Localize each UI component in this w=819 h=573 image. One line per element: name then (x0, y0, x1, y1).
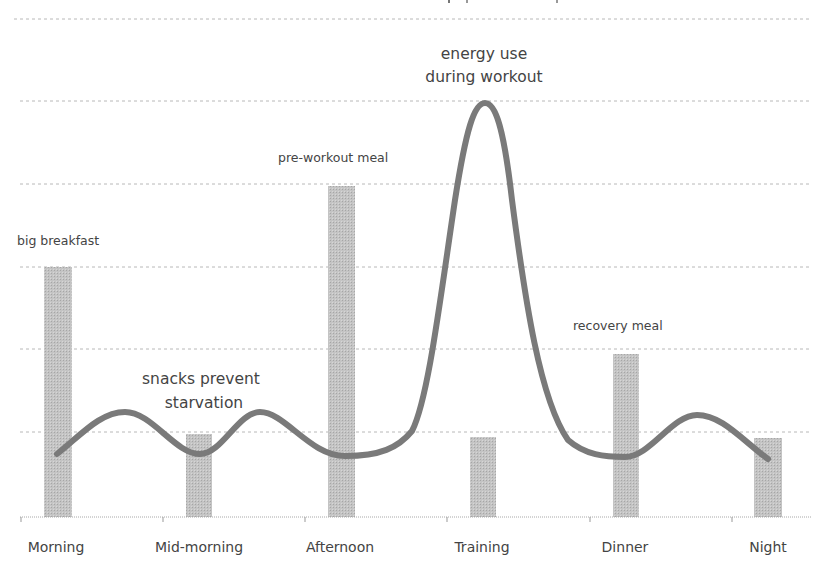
bar-mid-morning (186, 434, 212, 517)
bar-series (44, 186, 782, 517)
x-label-training: Training (453, 539, 509, 555)
annotation-recovery: recovery meal (573, 318, 663, 333)
x-axis-labels: Morning Mid-morning Afternoon Training D… (28, 539, 788, 555)
annotation-big-breakfast: big breakfast (17, 233, 99, 248)
bar-morning (44, 267, 72, 517)
annotation-energy-line2: during workout (425, 68, 542, 86)
x-label-mid-morning: Mid-morning (155, 539, 243, 555)
bar-afternoon (328, 186, 355, 517)
bar-dinner (613, 354, 639, 517)
x-axis (20, 517, 812, 522)
x-label-morning: Morning (28, 539, 85, 555)
chart: big breakfast snacks prevent starvation … (0, 0, 819, 573)
x-label-afternoon: Afternoon (306, 539, 374, 555)
x-label-dinner: Dinner (602, 539, 649, 555)
x-label-night: Night (749, 539, 787, 555)
annotation-energy-line1: energy use (441, 45, 527, 63)
annotation-snacks-line1: snacks prevent (142, 370, 260, 388)
energy-use-line (57, 103, 768, 459)
annotation-preworkout: pre-workout meal (278, 150, 388, 165)
annotation-snacks-line2: starvation (165, 394, 243, 412)
bar-training (470, 437, 496, 517)
title-remnant (448, 0, 558, 3)
gridlines (14, 19, 812, 432)
